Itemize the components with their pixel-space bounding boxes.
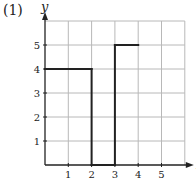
x-axis-arrow-icon <box>186 162 194 168</box>
y-tick-label: 2 <box>34 112 40 123</box>
y-tick-label: 1 <box>34 136 40 147</box>
y-tick-label: 5 <box>34 40 40 51</box>
x-tick-label: 2 <box>88 169 94 178</box>
x-tick-label: 1 <box>65 169 71 178</box>
x-tick-label: 5 <box>158 169 164 178</box>
x-tick-label: 4 <box>135 169 141 178</box>
axes <box>42 12 194 168</box>
y-axis-label: y <box>40 0 49 14</box>
y-tick-label: 4 <box>34 64 40 75</box>
y-tick-label: 3 <box>34 88 40 99</box>
x-tick-label: 3 <box>112 169 118 178</box>
step-function-chart: xy1234512345 <box>0 0 196 178</box>
